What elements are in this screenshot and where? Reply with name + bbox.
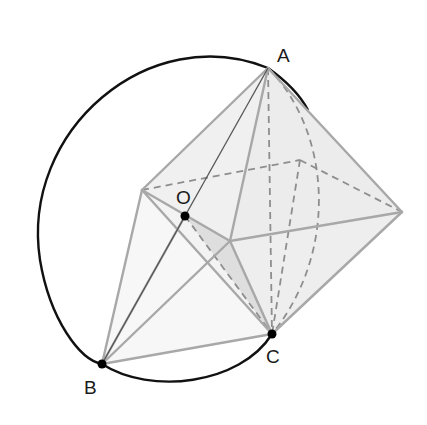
point-o: [181, 212, 190, 221]
label-b: B: [84, 377, 97, 398]
point-c: [268, 330, 277, 339]
label-c: C: [266, 346, 280, 367]
geometry-diagram: A O B C: [0, 0, 427, 425]
point-b: [98, 360, 107, 369]
label-a: A: [277, 45, 290, 66]
label-o: O: [176, 187, 191, 208]
